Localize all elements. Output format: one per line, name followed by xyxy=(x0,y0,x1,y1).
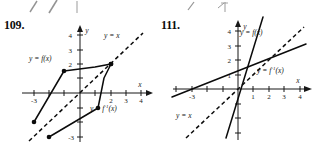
xtick-label-111-4: 1 xyxy=(251,93,255,101)
ytick-label-111-1: 3 xyxy=(228,43,232,51)
f-inverse-label-post-111: (x) xyxy=(275,66,284,75)
problem-number-109: 109. xyxy=(4,18,24,33)
f-inverse-label-post-109: (x) xyxy=(108,104,117,113)
graph-111: -3 1 2 3 4 4 3 2 1 x y y = f(x) xyxy=(159,0,318,152)
y-axis-109 xyxy=(77,25,83,142)
x-axis-109 xyxy=(22,90,153,96)
ytick-label-109-1: 3 xyxy=(69,47,73,55)
f-inverse-label-109: y = f-1(x) xyxy=(89,104,117,113)
xtick-label-111-1: -3 xyxy=(189,93,195,101)
f-inverse-label-pre-111: y = f xyxy=(256,66,272,75)
xtick-label-111-6: 3 xyxy=(282,93,286,101)
y-axis-label-109: y xyxy=(84,26,89,35)
figure-111: 111. xyxy=(159,0,318,152)
x-axis-label-111: x xyxy=(295,76,300,85)
xtick-label-111-7: 4 xyxy=(298,93,302,101)
textbook-figure-page: 109. xyxy=(0,0,318,152)
y-axis-111 xyxy=(235,20,241,140)
xtick-label-111-5: 2 xyxy=(267,93,271,101)
identity-line-111 xyxy=(186,27,304,138)
ytick-label-111-2: 2 xyxy=(228,57,232,65)
f-label-111: y = f(x) xyxy=(239,28,263,37)
identity-label-109: y = x xyxy=(103,31,120,40)
f-label-109: y = f(x) xyxy=(28,54,52,63)
f-inverse-label-pre-109: y = f xyxy=(89,104,105,113)
figure-109: 109. xyxy=(0,0,159,152)
x-axis-label-109: x xyxy=(137,80,142,89)
problem-number-111: 111. xyxy=(161,18,180,33)
f-inverse-label-111: y = f-1(x) xyxy=(256,66,284,75)
ytick-label-111-0: 4 xyxy=(228,28,232,36)
ytick-label-109-0: 4 xyxy=(69,32,73,40)
ytick-label-109-2: 2 xyxy=(69,61,73,69)
identity-label-111: y = x xyxy=(175,111,192,120)
xtick-label-109-6: 4 xyxy=(139,97,143,105)
xtick-label-109-5: 3 xyxy=(124,97,128,105)
xtick-label-109-0: -3 xyxy=(31,97,37,105)
ytick-label-109-6: -3 xyxy=(68,134,74,142)
identity-line-109 xyxy=(29,33,143,141)
